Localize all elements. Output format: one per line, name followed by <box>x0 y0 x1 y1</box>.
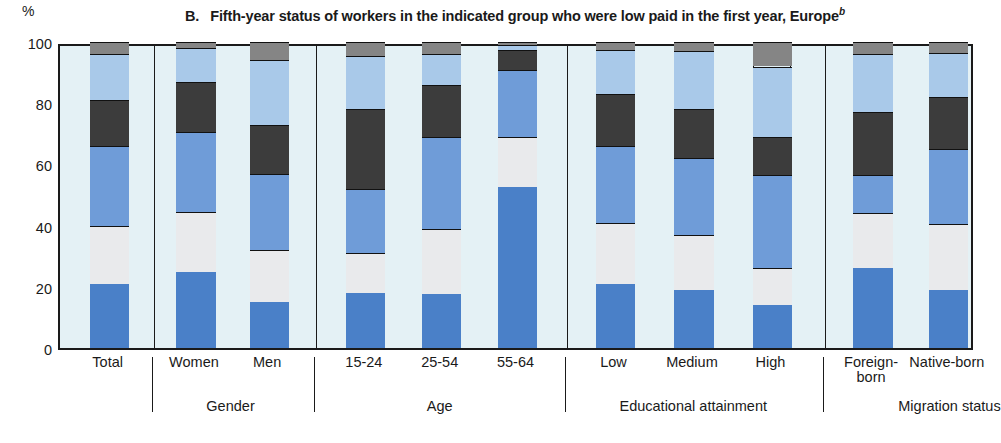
group-separator-4 <box>825 46 826 348</box>
y-tick-60: 60 <box>36 159 52 174</box>
bar-men <box>250 42 288 348</box>
bar-segment-6 <box>90 42 129 54</box>
bar-segment-1 <box>753 305 792 348</box>
bar-low <box>597 42 635 348</box>
group-tick-1 <box>152 357 153 412</box>
bar-medium <box>675 42 713 348</box>
y-tick-40: 40 <box>36 220 52 235</box>
bar-segment-3 <box>346 189 385 253</box>
bar-foreign-born <box>854 42 892 348</box>
bar-segment-2 <box>422 229 461 295</box>
group-tick-2 <box>314 357 315 412</box>
bar-segment-6 <box>929 42 968 53</box>
bar-segment-3 <box>90 146 129 226</box>
bar-segment-1 <box>929 290 968 348</box>
bar-segment-1 <box>596 284 635 348</box>
group-tick-4 <box>823 357 824 412</box>
group-separator-1 <box>154 46 155 348</box>
bar-segment-1 <box>422 294 461 348</box>
bar-segment-2 <box>853 213 892 268</box>
bar-segment-4 <box>674 109 713 158</box>
bar-15-24 <box>347 42 385 348</box>
group-label-educational-attainment: Educational attainment <box>620 398 768 414</box>
bar-high <box>753 42 791 348</box>
bar-segment-3 <box>498 70 537 137</box>
bar-segment-4 <box>90 100 129 146</box>
bar-segment-6 <box>753 42 792 66</box>
bar-segment-5 <box>250 60 289 124</box>
bar-segment-1 <box>498 187 537 348</box>
group-label-age: Age <box>427 398 453 414</box>
bar-segment-2 <box>929 224 968 290</box>
bar-segment-3 <box>853 175 892 213</box>
bar-segment-6 <box>498 42 537 45</box>
bar-segment-6 <box>176 42 215 48</box>
bar-segment-3 <box>753 175 792 268</box>
chart-title-text: Fifth-year status of workers in the indi… <box>210 8 839 24</box>
bar-segment-6 <box>596 42 635 50</box>
bar-women <box>177 42 215 348</box>
y-axis-unit-label: % <box>22 3 34 19</box>
bar-segment-5 <box>176 48 215 82</box>
bar-segment-1 <box>176 272 215 349</box>
bar-segment-2 <box>250 250 289 302</box>
y-tick-80: 80 <box>36 98 52 113</box>
group-tick-3 <box>565 357 566 412</box>
bar-segment-2 <box>753 268 792 305</box>
bar-segment-6 <box>674 42 713 51</box>
bar-segment-3 <box>176 132 215 212</box>
x-axis-group-band: GenderAgeEducational attainmentMigration… <box>58 355 973 443</box>
bar-segment-4 <box>929 97 968 149</box>
bar-segment-6 <box>422 42 461 54</box>
plot-area <box>58 44 973 350</box>
chart-title: B.Fifth-year status of workers in the in… <box>185 6 845 24</box>
y-tick-100: 100 <box>28 37 52 52</box>
bar-25-54 <box>423 42 461 348</box>
bar-segment-4 <box>176 82 215 132</box>
bar-segment-3 <box>596 146 635 223</box>
bar-segment-4 <box>422 85 461 137</box>
bar-segment-6 <box>250 42 289 60</box>
bar-segment-2 <box>596 223 635 284</box>
y-tick-20: 20 <box>36 282 52 297</box>
bar-segment-4 <box>753 137 792 175</box>
bar-total <box>91 42 129 348</box>
bar-segment-2 <box>674 235 713 290</box>
bar-segment-1 <box>346 293 385 348</box>
bar-segment-5 <box>853 54 892 112</box>
bar-segment-3 <box>250 174 289 251</box>
bar-segment-4 <box>346 109 385 189</box>
bar-segment-5 <box>674 51 713 109</box>
bar-segment-3 <box>929 149 968 224</box>
bar-segment-5 <box>346 56 385 110</box>
chart-panel-letter: B. <box>185 8 199 24</box>
bar-segment-5 <box>90 54 129 100</box>
bar-segment-2 <box>90 226 129 284</box>
bar-segment-5 <box>753 67 792 137</box>
bar-segment-5 <box>498 45 537 50</box>
bar-segment-1 <box>853 268 892 348</box>
bar-55-64 <box>499 42 537 348</box>
bar-segment-6 <box>346 42 385 56</box>
bar-segment-4 <box>250 125 289 174</box>
chart-title-footnote: b <box>839 6 845 17</box>
bar-segment-5 <box>596 50 635 94</box>
group-label-gender: Gender <box>206 398 254 414</box>
group-separator-2 <box>316 46 317 348</box>
bar-segment-1 <box>674 290 713 348</box>
bar-segment-4 <box>596 94 635 146</box>
bar-segment-5 <box>422 54 461 85</box>
bar-segment-1 <box>90 284 129 348</box>
bar-segment-2 <box>176 212 215 272</box>
bar-segment-2 <box>346 253 385 293</box>
y-tick-0: 0 <box>44 343 52 358</box>
bar-segment-1 <box>250 302 289 348</box>
bar-segment-5 <box>929 53 968 97</box>
bar-segment-3 <box>422 137 461 229</box>
bar-segment-4 <box>498 50 537 70</box>
bar-native-born <box>930 42 968 348</box>
bar-segment-4 <box>853 112 892 175</box>
bar-segment-3 <box>674 158 713 235</box>
group-separator-3 <box>567 46 568 348</box>
